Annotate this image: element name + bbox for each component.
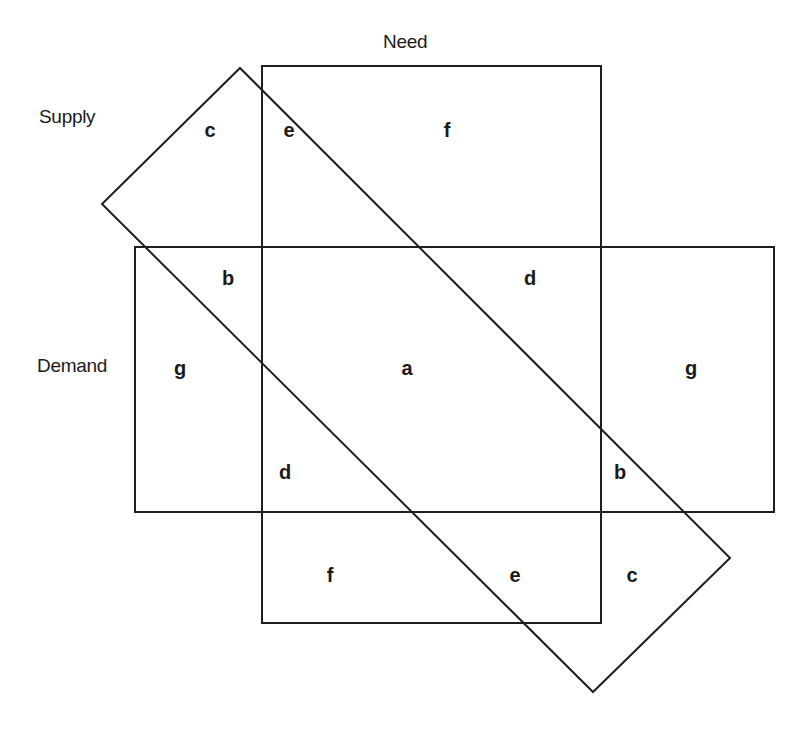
need-set-rectangle [262,66,601,623]
region-label-d-upper-right: d [524,268,536,288]
supply-set-rotated-rectangle [102,68,730,692]
demand-set-label: Demand [37,355,107,377]
region-label-c-top: c [204,120,215,140]
region-label-g-right: g [685,358,697,378]
region-label-b-lower-right: b [614,462,626,482]
region-label-f-top: f [444,120,451,140]
supply-set-label: Supply [39,106,95,128]
region-label-a-center: a [401,358,412,378]
region-label-d-lower-left: d [279,462,291,482]
region-label-c-bottom: c [626,565,637,585]
region-label-e-top: e [283,120,294,140]
need-set-label: Need [383,31,427,53]
region-label-f-bottom: f [327,565,334,585]
region-label-e-bottom: e [509,565,520,585]
region-label-g-left: g [174,358,186,378]
region-label-b-upper-left: b [222,268,234,288]
